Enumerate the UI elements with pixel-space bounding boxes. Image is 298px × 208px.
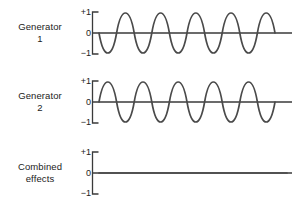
axis-tick-label-minus-one: −1 [81,49,91,58]
interference-figure: Generator 1 +1 0 −1 Generator 2 +1 0 −1 [0,0,298,208]
axis-labels-combined-effects: +1 0 −1 [74,140,91,206]
row-label-line1: Generator [18,90,62,102]
row-label-generator-1: Generator 1 [4,0,76,66]
axis-tick-label-minus-one: −1 [81,118,91,127]
axis-labels-generator-1: +1 0 −1 [74,0,91,66]
row-label-generator-2: Generator 2 [4,69,76,135]
row-label-line1: Combined [18,161,62,173]
plot-generator-1 [91,0,294,66]
axis-labels-generator-2: +1 0 −1 [74,69,91,135]
row-label-line2: 2 [37,102,42,114]
axis-tick-label-plus-one: +1 [81,8,91,17]
plot-generator-2 [91,69,294,135]
row-label-line2: effects [26,173,55,185]
axis-tick-label-plus-one: +1 [81,148,91,157]
axis-tick-label-minus-one: −1 [81,189,91,198]
axis-tick-label-plus-one: +1 [81,77,91,86]
panel-generator-2: Generator 2 +1 0 −1 [0,69,298,135]
row-label-line1: Generator [18,21,62,33]
plot-combined-effects [91,140,294,206]
row-label-line2: 1 [37,33,42,45]
panel-combined-effects: Combined effects +1 0 −1 [0,140,298,206]
row-label-combined-effects: Combined effects [4,140,76,206]
panel-generator-1: Generator 1 +1 0 −1 [0,0,298,66]
